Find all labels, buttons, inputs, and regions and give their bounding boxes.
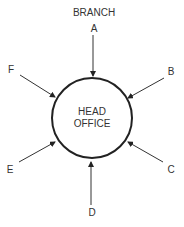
head-office-line1: HEAD bbox=[74, 106, 111, 118]
branch-label-f: F bbox=[8, 65, 14, 75]
head-office-label: HEAD OFFICE bbox=[74, 106, 111, 130]
arrow-e bbox=[19, 142, 55, 162]
arrow-b bbox=[128, 78, 164, 98]
arrow-c bbox=[128, 142, 163, 162]
branch-label-a: A bbox=[91, 24, 98, 34]
branch-label-e: E bbox=[7, 165, 14, 175]
branch-label-b: B bbox=[168, 67, 175, 77]
title-branch: BRANCH bbox=[73, 8, 115, 18]
branch-label-c: C bbox=[167, 165, 174, 175]
arrow-f bbox=[20, 75, 55, 97]
branch-label-d: D bbox=[88, 208, 95, 218]
head-office-line2: OFFICE bbox=[74, 118, 111, 130]
